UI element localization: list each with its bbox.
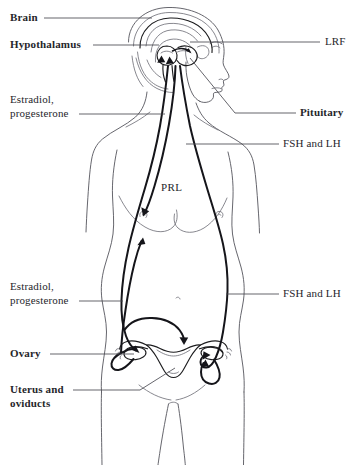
label-oviducts-line2: oviducts <box>10 397 50 410</box>
estradiol-left-ascending-path <box>121 241 142 353</box>
left-thigh-outer <box>101 392 102 465</box>
ear-outline <box>197 46 209 59</box>
leader-pituitary <box>190 58 296 113</box>
uterus-top-arc-arrow-head <box>180 337 189 345</box>
label-lrf: LRF <box>325 35 346 48</box>
right-thigh-outer <box>244 392 245 465</box>
estradiol-to-hypothalamus-arrow-head-2 <box>166 57 174 65</box>
fsh-lh-right-pathway <box>180 66 228 368</box>
uterus-fundus-line <box>157 350 190 356</box>
label-progesterone-upper-line2: progesterone <box>10 107 69 120</box>
navel <box>176 297 180 299</box>
fsh-lh-left-path <box>121 66 168 351</box>
nostril-line <box>219 79 224 80</box>
jaw-neck-outline <box>186 62 200 101</box>
right-thigh-inner <box>178 404 185 465</box>
label-uterus-line1: Uterus and <box>10 383 64 396</box>
right-torso-waist-hip <box>228 152 244 392</box>
label-fsh-lh-upper: FSH and LH <box>283 137 341 150</box>
brain-stem-outline <box>163 65 166 82</box>
prl-arrow-head <box>141 207 149 216</box>
fsh-lh-right-path <box>180 66 228 368</box>
right-fimbriae <box>226 349 232 359</box>
lip-line <box>212 88 221 89</box>
torso-outline-group <box>86 92 260 465</box>
left-thigh-inner <box>158 404 169 465</box>
occipital-line <box>132 56 143 87</box>
label-ovary: Ovary <box>10 347 41 360</box>
right-nipple-dot <box>219 214 221 215</box>
label-brain: Brain <box>10 11 38 24</box>
left-breast-outline <box>119 196 177 232</box>
uterus-right-loop-pathway <box>201 360 220 384</box>
head-profile-group <box>129 7 230 102</box>
right-neck-shoulder-arm <box>196 103 260 233</box>
perineum-line <box>169 402 179 404</box>
label-prl: PRL <box>161 181 182 193</box>
prl-pathway <box>141 66 175 217</box>
uterus-top-arc-path <box>125 318 185 341</box>
label-fsh-lh-lower: FSH and LH <box>283 287 341 300</box>
estradiol-left-arrow-head <box>137 238 145 246</box>
label-hypothalamus: Hypothalamus <box>10 38 81 51</box>
groin-crease-right <box>176 385 205 400</box>
gyrus-line-1 <box>146 23 201 46</box>
hypothalamus-inner-line <box>161 51 173 53</box>
cervix-line <box>169 372 179 374</box>
clavicle-line-right <box>194 115 218 130</box>
uterus-outline <box>147 345 201 378</box>
label-estradiol-lower-line1: Estradiol, <box>10 280 54 293</box>
leader-uterus-diagonal <box>140 368 175 390</box>
infundibulum-outline <box>172 66 174 82</box>
endocrine-axis-figure: Brain Hypothalamus Estradiol, progestero… <box>0 0 359 465</box>
label-estradiol-upper-line1: Estradiol, <box>10 93 54 106</box>
label-progesterone-lower-line2: progesterone <box>10 294 69 307</box>
estradiol-to-hypothalamus-arrow-head <box>157 56 165 63</box>
estradiol-left-pathway <box>111 238 145 371</box>
left-torso-waist-hip <box>101 150 117 392</box>
label-pituitary: Pituitary <box>300 106 344 119</box>
